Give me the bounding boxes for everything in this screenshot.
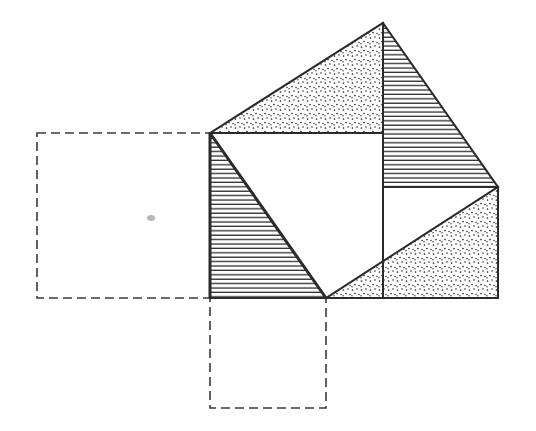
smudge-mark [147,215,155,221]
bottom-leg-square [210,298,326,408]
left-leg-square [37,133,210,298]
pythagorean-dissection-diagram [0,0,536,431]
